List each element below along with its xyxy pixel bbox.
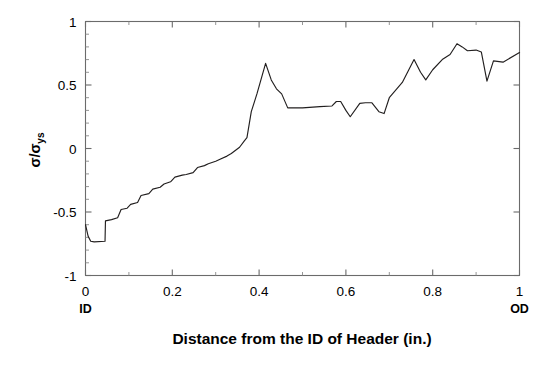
x-axis-major-ticks: [86, 22, 520, 276]
axis-end-label: ID: [79, 302, 92, 316]
x-axis-minor-ticks: [129, 22, 476, 276]
x-tick-label: 0.2: [163, 284, 182, 299]
y-axis-title-subscript: ys: [35, 132, 46, 144]
x-tick-label: 0.6: [337, 284, 356, 299]
x-tick-label: 0.4: [250, 284, 269, 299]
x-axis-title: Distance from the ID of Header (in.): [172, 330, 431, 347]
y-axis-title-group: σ/σys: [27, 132, 46, 167]
y-tick-label: 0: [69, 142, 77, 157]
y-tick-label: 0.5: [58, 78, 77, 93]
y-axis-title-base: σ/σ: [27, 144, 43, 168]
x-tick-label: 1: [516, 284, 524, 299]
chart-figure: 00.20.40.60.81 -1-0.500.51 IDOD Distance…: [0, 0, 554, 366]
y-tick-label: 1: [69, 15, 77, 30]
x-tick-label: 0: [82, 284, 90, 299]
y-axis-tick-labels: -1-0.500.51: [53, 15, 76, 284]
x-tick-label: 0.8: [423, 284, 442, 299]
x-axis-tick-labels: 00.20.40.60.81: [82, 284, 524, 299]
y-tick-label: -0.5: [53, 205, 76, 220]
y-axis-major-ticks: [86, 22, 520, 276]
y-tick-label: -1: [64, 269, 76, 284]
plot-frame: [86, 22, 520, 276]
y-axis-title: σ/σys: [27, 132, 46, 167]
data-series-line: [86, 44, 520, 242]
line-chart-svg: 00.20.40.60.81 -1-0.500.51 IDOD Distance…: [0, 0, 554, 366]
axis-end-labels: IDOD: [79, 302, 529, 316]
axis-end-label: OD: [510, 302, 529, 316]
